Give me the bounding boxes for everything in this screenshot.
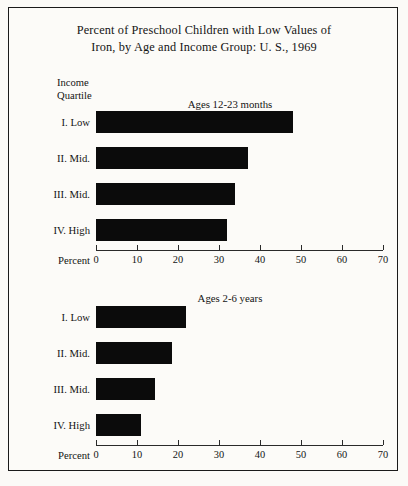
bar <box>96 414 141 436</box>
category-label: I. Low <box>2 311 90 323</box>
x-axis-tick <box>137 245 138 250</box>
category-label: IV. High <box>2 224 90 236</box>
x-axis-tick-label: 70 <box>370 254 396 265</box>
x-axis-tick-label: 50 <box>288 254 314 265</box>
category-label: III. Mid. <box>2 188 90 200</box>
bar <box>96 219 227 241</box>
bar <box>96 378 155 400</box>
x-axis-tick-label: 70 <box>370 449 396 460</box>
x-axis-tick <box>301 440 302 445</box>
x-axis-tick-label: 30 <box>206 449 232 460</box>
category-label: IV. High <box>2 419 90 431</box>
x-axis-tick <box>96 440 97 445</box>
x-axis-tick-label: 60 <box>329 254 355 265</box>
panel-title: Ages 2-6 years <box>150 292 310 304</box>
category-label: II. Mid. <box>2 152 90 164</box>
x-axis-tick-label: 20 <box>165 254 191 265</box>
income-quartile-header-line2: Quartile <box>57 89 92 103</box>
x-axis-tick-label: 40 <box>247 254 273 265</box>
x-axis-tick-label: 10 <box>124 254 150 265</box>
x-axis-tick <box>342 245 343 250</box>
x-axis-tick <box>178 245 179 250</box>
x-axis-tick <box>260 245 261 250</box>
figure-title-line1: Percent of Preschool Children with Low V… <box>0 22 408 39</box>
x-axis-label: Percent <box>2 449 90 461</box>
category-label: I. Low <box>2 116 90 128</box>
figure-title-line2: Iron, by Age and Income Group: U. S., 19… <box>0 39 408 56</box>
x-axis-tick-label: 50 <box>288 449 314 460</box>
x-axis-tick-label: 40 <box>247 449 273 460</box>
bar <box>96 342 172 364</box>
x-axis-tick-label: 20 <box>165 449 191 460</box>
x-axis-tick <box>383 440 384 445</box>
bar <box>96 111 293 133</box>
x-axis-tick <box>383 245 384 250</box>
x-axis-tick <box>219 245 220 250</box>
bar <box>96 306 186 328</box>
x-axis-tick-label: 60 <box>329 449 355 460</box>
x-axis-label: Percent <box>2 254 90 266</box>
x-axis-tick <box>260 440 261 445</box>
x-axis-line <box>96 445 383 446</box>
figure-page: Percent of Preschool Children with Low V… <box>0 0 408 486</box>
category-label: III. Mid. <box>2 383 90 395</box>
x-axis-tick <box>342 440 343 445</box>
bar <box>96 183 235 205</box>
x-axis-tick <box>219 440 220 445</box>
x-axis-tick-label: 30 <box>206 254 232 265</box>
x-axis-tick <box>137 440 138 445</box>
category-label: II. Mid. <box>2 347 90 359</box>
x-axis-line <box>96 250 383 251</box>
income-quartile-header-line1: Income <box>57 76 89 90</box>
x-axis-tick-label: 10 <box>124 449 150 460</box>
x-axis-tick <box>301 245 302 250</box>
panel-title: Ages 12-23 months <box>150 98 310 110</box>
x-axis-tick <box>96 245 97 250</box>
bar <box>96 147 248 169</box>
x-axis-tick <box>178 440 179 445</box>
